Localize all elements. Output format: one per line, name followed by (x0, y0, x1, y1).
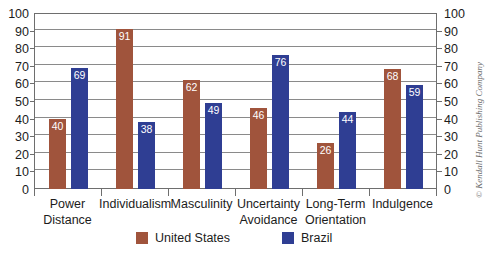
y-tick-label-left: 100 (8, 8, 29, 21)
y-tick-label-right: 0 (444, 184, 451, 197)
y-tick-left (30, 119, 35, 120)
bar-united-states-uncertainty-avoidance: 46 (250, 108, 267, 189)
y-tick-left (30, 83, 35, 84)
bar-value-label: 46 (250, 110, 267, 122)
bar-united-states-long-term-orientation: 26 (317, 143, 334, 189)
y-tick-left (30, 31, 35, 32)
category-label-line: Masculinity (168, 196, 235, 212)
y-tick-right (437, 31, 442, 32)
y-tick-label-right: 10 (444, 166, 458, 179)
x-axis-label-power-distance: Power Distance (34, 196, 101, 228)
bar-value-label: 38 (138, 124, 155, 136)
category-label-line: Orientation (302, 212, 369, 228)
bar-brazil-indulgence: 59 (406, 85, 423, 189)
y-tick-left (30, 101, 35, 102)
bar-value-label: 49 (205, 105, 222, 117)
y-tick-label-right: 60 (444, 78, 458, 91)
x-axis-label-uncertainty-avoidance: Uncertainty Avoidance (235, 196, 302, 228)
category-label-line: Distance (34, 212, 101, 228)
y-tick-left (30, 154, 35, 155)
x-axis-label-indulgence: Indulgence (369, 196, 436, 212)
copyright-credit: © Kendall Hunt Publishing Company (472, 0, 486, 259)
category-label-line: Indulgence (369, 196, 436, 212)
y-tick-label-left: 70 (15, 61, 29, 74)
bar-chart-figure: 40 69 91 38 62 49 46 76 26 44 (0, 0, 488, 259)
bar-united-states-indulgence: 68 (384, 69, 401, 189)
y-tick-label-right: 70 (444, 61, 458, 74)
bar-value-label: 62 (183, 82, 200, 94)
y-tick-label-left: 50 (15, 96, 29, 109)
category-label-line: Individualism (99, 196, 170, 212)
bars-layer: 40 69 91 38 62 49 46 76 26 44 (34, 13, 437, 189)
y-tick-label-left: 10 (15, 166, 29, 179)
bar-value-label: 59 (406, 87, 423, 99)
copyright-text: © Kendall Hunt Publishing Company (474, 62, 484, 198)
legend-label: United States (155, 232, 230, 245)
y-tick-right (437, 136, 442, 137)
legend-entry-united-states[interactable]: United States (136, 232, 230, 245)
y-tick-label-left: 20 (15, 149, 29, 162)
legend-label: Brazil (301, 232, 332, 245)
y-tick-label-right: 100 (444, 8, 465, 21)
x-axis-label-masculinity: Masculinity (168, 196, 235, 212)
y-tick-label-left: 40 (15, 114, 29, 127)
bar-brazil-individualism: 38 (138, 122, 155, 189)
category-label-line: Power (34, 196, 101, 212)
y-tick-left (30, 66, 35, 67)
category-separator (168, 189, 169, 196)
legend-swatch-icon (282, 232, 294, 244)
bar-value-label: 76 (272, 57, 289, 69)
x-axis-label-individualism: Individualism (99, 196, 170, 212)
category-separator (302, 189, 303, 196)
y-tick-left (30, 171, 35, 172)
y-tick-label-right: 30 (444, 131, 458, 144)
category-label-line: Uncertainty (235, 196, 302, 212)
legend-entry-brazil[interactable]: Brazil (282, 232, 332, 245)
bar-united-states-individualism: 91 (116, 29, 133, 189)
bar-brazil-long-term-orientation: 44 (339, 112, 356, 189)
y-tick-left (30, 48, 35, 49)
y-tick-right (437, 154, 442, 155)
y-tick-left (30, 136, 35, 137)
bar-united-states-masculinity: 62 (183, 80, 200, 189)
y-tick-right (437, 171, 442, 172)
category-separator (235, 189, 236, 196)
y-tick-label-left: 60 (15, 78, 29, 91)
legend-swatch-icon (136, 232, 148, 244)
bar-value-label: 40 (49, 121, 66, 133)
x-axis-label-long-term-orientation: Long-Term Orientation (302, 196, 369, 228)
y-tick-right (437, 48, 442, 49)
y-tick-label-right: 80 (444, 43, 458, 56)
y-tick-right (437, 66, 442, 67)
y-tick-right (437, 83, 442, 84)
category-label-line: Long-Term (302, 196, 369, 212)
bar-value-label: 68 (384, 71, 401, 83)
bar-united-states-power-distance: 40 (49, 119, 66, 189)
y-tick-label-right: 50 (444, 96, 458, 109)
y-tick-label-right: 40 (444, 114, 458, 127)
y-tick-label-left: 0 (22, 184, 29, 197)
bar-brazil-uncertainty-avoidance: 76 (272, 55, 289, 189)
category-separator (101, 189, 102, 196)
y-axis-left: 100 90 80 70 60 50 40 30 20 10 0 (0, 0, 29, 259)
y-tick-label-right: 20 (444, 149, 458, 162)
category-separator (369, 189, 370, 196)
y-tick-label-left: 80 (15, 43, 29, 56)
category-label-line: Avoidance (235, 212, 302, 228)
y-tick-label-left: 90 (15, 26, 29, 39)
bar-value-label: 26 (317, 145, 334, 157)
bar-value-label: 91 (116, 31, 133, 43)
y-tick-label-left: 30 (15, 131, 29, 144)
bar-brazil-masculinity: 49 (205, 103, 222, 189)
category-separator (436, 189, 437, 196)
category-separator (34, 189, 35, 196)
y-tick-label-right: 90 (444, 26, 458, 39)
bar-value-label: 44 (339, 114, 356, 126)
y-tick-right (437, 119, 442, 120)
chart-legend: United States Brazil (34, 232, 437, 252)
y-tick-right (437, 101, 442, 102)
bar-brazil-power-distance: 69 (71, 68, 88, 189)
bar-value-label: 69 (71, 70, 88, 82)
